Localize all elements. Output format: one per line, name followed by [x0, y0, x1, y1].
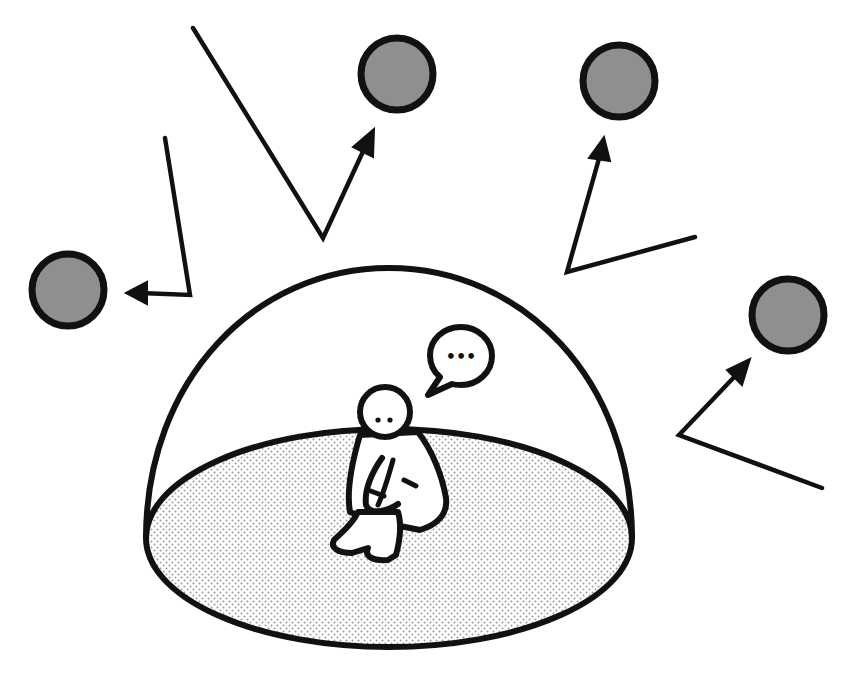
arrow-top-right-icon — [567, 137, 695, 272]
scene-canvas: ••• — [0, 0, 856, 674]
arrow-left-icon — [126, 138, 190, 304]
balls — [32, 38, 824, 351]
ball-right — [752, 279, 824, 351]
ball-top-left — [361, 38, 433, 110]
ball-top-right — [583, 45, 655, 117]
bounce-arrows — [126, 28, 822, 488]
speech-bubble-icon: ••• — [428, 327, 492, 395]
arrow-right-icon — [679, 359, 822, 488]
arrow-top-left-icon — [193, 28, 374, 238]
speech-bubble-ellipsis: ••• — [446, 347, 477, 366]
ball-left — [32, 254, 104, 326]
illustration: ••• — [0, 0, 856, 674]
